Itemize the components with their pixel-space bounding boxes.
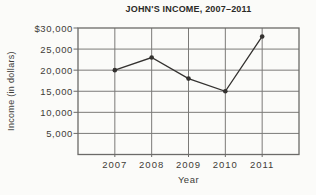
x-tick-label: 2010 (205, 159, 245, 171)
x-tick-label: 2011 (242, 159, 282, 171)
data-point-2011 (260, 34, 265, 39)
y-tick-label: 10,000 (0, 107, 73, 118)
data-point-2008 (149, 55, 154, 60)
y-tick-label: 25,000 (0, 44, 73, 55)
x-tick-label: 2008 (132, 159, 172, 171)
y-tick-label: $30,000 (0, 23, 73, 34)
chart-page: JOHN'S INCOME, 2007–2011 Income (in doll… (0, 0, 316, 195)
data-point-2010 (223, 89, 228, 94)
data-point-2007 (113, 68, 118, 73)
x-axis-title: Year (78, 174, 299, 185)
y-tick-label: 20,000 (0, 65, 73, 76)
y-tick-label: 15,000 (0, 86, 73, 97)
x-tick-label: 2007 (95, 159, 135, 171)
y-tick-label: 5,000 (0, 128, 73, 139)
x-tick-label: 2009 (169, 159, 209, 171)
data-point-2009 (186, 76, 191, 81)
